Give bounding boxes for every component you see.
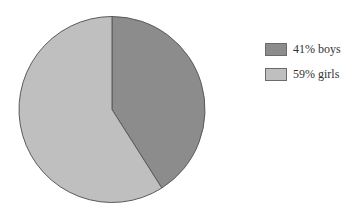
legend-label-boys: 41% boys [293, 42, 341, 57]
legend: 41% boys 59% girls [265, 42, 341, 92]
legend-label-girls: 59% girls [293, 67, 339, 82]
legend-swatch-girls [265, 68, 287, 81]
legend-item-boys: 41% boys [265, 42, 341, 56]
legend-item-girls: 59% girls [265, 67, 341, 81]
legend-swatch-boys [265, 43, 287, 56]
pie-chart [0, 0, 355, 216]
